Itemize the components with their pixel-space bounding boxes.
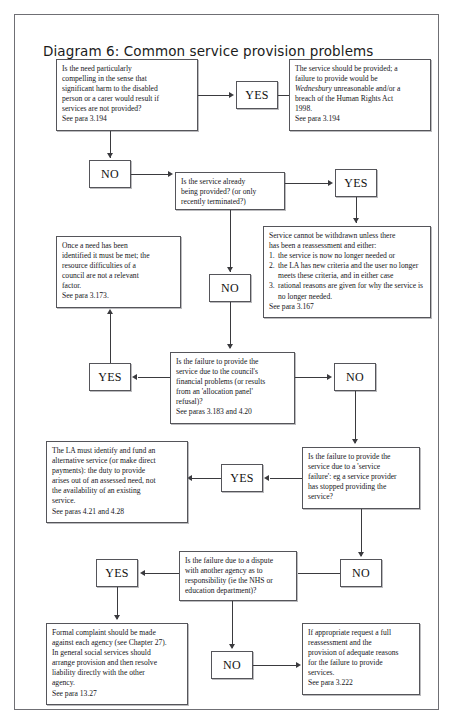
arrowhead-already-provided-to-no [227, 267, 233, 272]
line: services. [308, 668, 414, 678]
decision-no-service-failure: NO [340, 559, 382, 587]
line: has stopped providing the [308, 482, 414, 492]
decision-no-financial: NO [334, 363, 376, 391]
decision-no-already-provided: NO [209, 274, 251, 302]
line: The LA must identify and fund an [52, 446, 182, 456]
decision-yes-financial: YES [89, 363, 131, 391]
edge-no-to-financial [230, 302, 231, 348]
line: compelling in the sense that [62, 74, 192, 84]
decision-label: YES [344, 178, 368, 188]
line: 1998. [295, 104, 425, 114]
line: arises out of an assessed need, not [52, 476, 182, 486]
line: Is the failure to provide the [176, 357, 289, 367]
arrowhead-yes-to-cannot-withdraw [353, 218, 359, 223]
node-outcome-request-reassessment: If appropriate request a full reassessme… [302, 623, 420, 695]
line: identified it must be met; the [62, 251, 175, 261]
line: failure': eg a service provider [308, 472, 414, 482]
list-text: the service is now no longer needed or [278, 251, 395, 260]
list-item: 1. the service is now no longer needed o… [269, 251, 425, 261]
line: See para 3.194 [62, 114, 192, 124]
edge-yes-financial-to-need-met [110, 314, 111, 363]
line: recently terminated?) [181, 197, 279, 207]
line: with another agency as to [185, 566, 291, 576]
diagram-page: Diagram 6: Common service provision prob… [0, 0, 453, 724]
line: reassessment and the [308, 638, 414, 648]
line: Is the failure due to a dispute [185, 556, 291, 566]
arrowhead-no-dispute-to-reassessment [296, 662, 301, 668]
node-outcome-cannot-be-withdrawn: Service cannot be withdrawn unless there… [263, 226, 431, 318]
arrowhead-no-to-financial [227, 344, 233, 349]
line: In general social services should [52, 648, 182, 658]
edge-financial-to-no [295, 377, 328, 378]
list-item: 3. rational reasons are given for why th… [269, 281, 425, 301]
line: against each agency (see Chapter 27). [52, 638, 182, 648]
edge-no-to-already-provided [131, 174, 169, 175]
arrowhead-yes-financial-to-need-met [107, 309, 113, 314]
list-number: 1. [269, 251, 275, 261]
node-question-dispute-agency: Is the failure due to a dispute with ano… [179, 551, 297, 601]
decision-label: YES [105, 568, 129, 578]
arrowhead-already-provided-to-yes [328, 180, 333, 186]
node-outcome-alternative-service: The LA must identify and fund an alterna… [46, 441, 188, 523]
line: significant harm to the disabled [62, 84, 192, 94]
edge-dispute-to-no [232, 601, 233, 648]
line: person or a carer would result if [62, 94, 192, 104]
decision-label: NO [346, 372, 364, 382]
line: factor. [62, 281, 175, 291]
arrowhead-compelling-to-yes [229, 92, 234, 98]
decision-label: NO [223, 660, 241, 670]
line: Is the service already [181, 177, 279, 187]
line: agency. [52, 678, 182, 688]
edge-compelling-to-yes [198, 95, 230, 96]
line: See paras 4.21 and 4.28 [52, 507, 182, 517]
decision-label: NO [101, 169, 119, 179]
edge-no-financial-to-service-failure [355, 391, 356, 443]
line: resource difficulties of a [62, 261, 175, 271]
line: See para 3.173. [62, 291, 175, 301]
line: being provided? (or only [181, 187, 279, 197]
line: service due to the council's [176, 367, 289, 377]
line: responsibility (ie the NHS or [185, 576, 291, 586]
decision-no-compelling: NO [89, 160, 131, 188]
page-title: Diagram 6: Common service provision prob… [43, 43, 373, 59]
line: The service should be provided; a [295, 64, 425, 74]
arrowhead-financial-to-yes [132, 374, 137, 380]
line: failure to provide would be [295, 74, 425, 84]
edge-financial-to-yes [138, 377, 170, 378]
node-outcome-need-must-be-met: Once a need has been identified it must … [56, 236, 181, 308]
line: the availability of an existing [52, 486, 182, 496]
arrowhead-yes-dispute-to-formal-complaint [114, 615, 120, 620]
edge-already-provided-to-yes [285, 183, 329, 184]
line: See paras 3.183 and 4.20 [176, 407, 289, 417]
edge-yes-to-alternative-service [192, 478, 221, 479]
edge-already-provided-to-no [230, 210, 231, 272]
line: Service cannot be withdrawn unless there [269, 231, 425, 241]
list-number: 2. [269, 261, 275, 271]
edge-service-failure-to-yes [270, 478, 302, 479]
line: for the failure to provide [308, 658, 414, 668]
list-number: 3. [269, 281, 275, 291]
arrowhead-financial-to-no [327, 374, 332, 380]
diagram-frame: Diagram 6: Common service provision prob… [14, 14, 439, 710]
line: See para 3.167 [269, 302, 425, 312]
list-text: rational reasons are given for why the s… [278, 281, 423, 300]
decision-label: YES [98, 372, 122, 382]
decision-yes-dispute: YES [96, 559, 138, 587]
decision-yes-compelling: YES [236, 81, 278, 109]
edge-service-failure-to-no [361, 509, 362, 556]
line-with-italic: Wednesbury unreasonable and/or a [295, 84, 425, 94]
edge-no-dispute-to-reassessment [253, 665, 297, 666]
line: liability directly with the other [52, 668, 182, 678]
decision-yes-already-provided: YES [335, 169, 377, 197]
italic-term: Wednesbury [295, 84, 332, 93]
arrowhead-dispute-to-yes [140, 570, 145, 576]
node-question-compelling-need: Is the need particularly compelling in t… [56, 59, 198, 131]
node-question-service-failure: Is the failure to provide the service du… [302, 447, 420, 509]
arrowhead-no-to-already-provided [168, 171, 173, 177]
line: If appropriate request a full [308, 628, 414, 638]
line: provision of adequate reasons [308, 648, 414, 658]
line: services are not provided? [62, 104, 192, 114]
decision-label: NO [221, 283, 239, 293]
line: Is the need particularly [62, 64, 192, 74]
line-rest: unreasonable and/or a [332, 84, 401, 93]
